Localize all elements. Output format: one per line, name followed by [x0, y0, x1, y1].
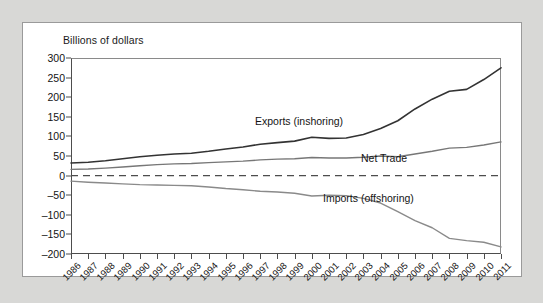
- x-tick-mark: [105, 254, 106, 259]
- y-tick-label: –50: [47, 189, 65, 201]
- x-tick-mark: [467, 254, 468, 259]
- annotation-exports: Exports (inshoring): [255, 115, 343, 127]
- x-tick-mark: [363, 254, 364, 259]
- x-tick-mark: [381, 254, 382, 259]
- y-tick-label: 0: [59, 170, 65, 182]
- x-tick-mark: [449, 254, 450, 259]
- x-tick-mark: [243, 254, 244, 259]
- x-tick-mark: [174, 254, 175, 259]
- x-tick-mark: [191, 254, 192, 259]
- y-tick-label: 50: [53, 150, 65, 162]
- series-lines: [71, 58, 501, 254]
- x-tick-mark: [484, 254, 485, 259]
- x-tick-mark: [312, 254, 313, 259]
- x-tick-mark: [209, 254, 210, 259]
- x-tick-mark: [123, 254, 124, 259]
- annotation-net-trade: Net Trade: [361, 152, 407, 164]
- y-tick-label: 300: [47, 52, 65, 64]
- chart-panel: Billions of dollars 300250200150100500–5…: [22, 22, 522, 277]
- x-tick-mark: [295, 254, 296, 259]
- y-tick-label: –100: [42, 209, 65, 221]
- annotation-imports: Imports (offshoring): [323, 192, 414, 204]
- y-axis-title: Billions of dollars: [63, 34, 144, 46]
- x-tick-mark: [432, 254, 433, 259]
- x-tick-mark: [157, 254, 158, 259]
- x-tick-label: 2011: [491, 260, 513, 282]
- x-tick-mark: [329, 254, 330, 259]
- y-tick-label: –150: [42, 228, 65, 240]
- x-tick-mark: [260, 254, 261, 259]
- x-tick-mark: [501, 254, 502, 259]
- x-tick-mark: [226, 254, 227, 259]
- y-tick-label: 150: [47, 111, 65, 123]
- line-imports-offshoring: [71, 181, 501, 247]
- x-tick-mark: [277, 254, 278, 259]
- x-tick-mark: [71, 254, 72, 259]
- y-tick-label: 250: [47, 72, 65, 84]
- line-net-trade: [71, 142, 501, 169]
- x-tick-mark: [140, 254, 141, 259]
- x-tick-mark: [88, 254, 89, 259]
- y-tick-label: 200: [47, 91, 65, 103]
- plot-area: 300250200150100500–50–100–150–200 198619…: [71, 58, 501, 254]
- y-tick-label: –200: [42, 248, 65, 260]
- x-tick-mark: [346, 254, 347, 259]
- x-tick-mark: [398, 254, 399, 259]
- x-tick-mark: [415, 254, 416, 259]
- figure-root: Billions of dollars 300250200150100500–5…: [0, 0, 543, 303]
- y-tick-label: 100: [47, 130, 65, 142]
